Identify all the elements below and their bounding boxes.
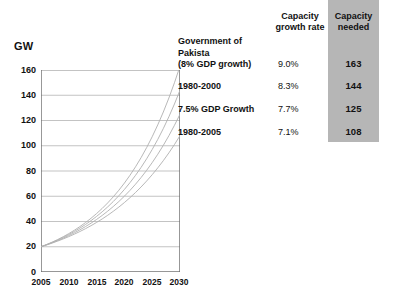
column-header-growth-line2: growth rate bbox=[275, 22, 324, 32]
y-tick-label-40: 40 bbox=[2, 216, 36, 226]
table-row-label: 7.5% GDP Growth bbox=[178, 104, 274, 116]
column-header-capacity-needed: Capacity needed bbox=[328, 11, 379, 33]
table-row-capacity-needed: 108 bbox=[328, 126, 379, 137]
table-row-growth-rate: 7.7% bbox=[278, 104, 320, 114]
column-header-needed-line2: needed bbox=[338, 22, 370, 32]
table-row-label: Government of Pakista (8% GDP growth) bbox=[178, 36, 274, 71]
y-tick-label-140: 140 bbox=[2, 90, 36, 100]
y-tick-label-20: 20 bbox=[2, 241, 36, 251]
row-label-line3: (8% GDP growth) bbox=[178, 59, 251, 69]
y-tick-label-80: 80 bbox=[2, 166, 36, 176]
column-header-needed-line1: Capacity bbox=[335, 11, 373, 21]
y-axis-title: GW bbox=[14, 40, 34, 52]
plot-svg bbox=[41, 70, 180, 272]
table-row-label: 1980-2005 bbox=[178, 127, 274, 139]
table-row-capacity-needed: 144 bbox=[328, 80, 379, 91]
y-tick-label-160: 160 bbox=[2, 65, 36, 75]
table-row-capacity-needed: 163 bbox=[328, 58, 379, 69]
capacity-table: Capacity growth rate Capacity needed Gov… bbox=[176, 0, 394, 307]
y-tick-label-100: 100 bbox=[2, 140, 36, 150]
table-row-label: 1980-2000 bbox=[178, 81, 274, 93]
row-label-line1: 1980-2005 bbox=[178, 127, 221, 137]
row-label-line1: Government of bbox=[178, 36, 242, 46]
row-label-line1: 1980-2000 bbox=[178, 81, 221, 91]
y-tick-label-120: 120 bbox=[2, 115, 36, 125]
column-header-growth-line1: Capacity bbox=[281, 11, 319, 21]
table-row-growth-rate: 9.0% bbox=[278, 59, 320, 69]
row-label-line2: Pakista bbox=[178, 48, 210, 58]
table-row-growth-rate: 7.1% bbox=[278, 127, 320, 137]
y-tick-label-60: 60 bbox=[2, 191, 36, 201]
table-row-capacity-needed: 125 bbox=[328, 103, 379, 114]
y-tick-label-0: 0 bbox=[2, 267, 36, 277]
row-label-line1: 7.5% GDP Growth bbox=[178, 104, 254, 114]
table-row-growth-rate: 8.3% bbox=[278, 81, 320, 91]
line-chart: GW 160 140 120 100 80 60 40 20 0 bbox=[0, 0, 195, 307]
column-header-capacity-growth-rate: Capacity growth rate bbox=[272, 11, 328, 33]
plot-area bbox=[41, 70, 180, 272]
